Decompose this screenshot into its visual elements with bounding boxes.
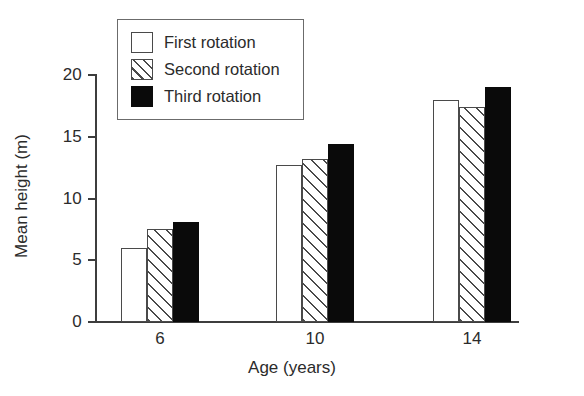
bar-chart: 05101520 61014 Age (years) Mean height (… — [0, 0, 584, 396]
legend-swatch-hatch-icon — [131, 59, 153, 80]
y-tick-mark — [88, 259, 96, 261]
legend-item-first-rotation: First rotation — [131, 29, 303, 56]
legend-item-second-rotation: Second rotation — [131, 56, 303, 83]
bar-second-rotation-age-14 — [459, 107, 485, 322]
y-axis-title: Mean height (m) — [12, 96, 32, 296]
legend-swatch-solid-icon — [131, 86, 153, 107]
legend-label: Second rotation — [164, 61, 280, 78]
x-tick-label: 10 — [275, 330, 355, 348]
y-tick-label: 15 — [36, 128, 82, 145]
bar-second-rotation-age-6 — [147, 229, 173, 322]
chart-legend: First rotation Second rotation Third rot… — [117, 19, 304, 120]
y-tick-label: 5 — [36, 251, 82, 268]
x-tick-label: 14 — [432, 330, 512, 348]
x-tick-label: 6 — [120, 330, 200, 348]
y-tick-label: 10 — [36, 190, 82, 207]
legend-label: First rotation — [164, 34, 256, 51]
y-tick-mark — [88, 198, 96, 200]
x-axis-title: Age (years) — [0, 358, 584, 378]
y-tick-label: 20 — [36, 66, 82, 83]
bar-third-rotation-age-10 — [328, 144, 354, 322]
bar-first-rotation-age-10 — [276, 165, 302, 322]
y-tick-mark — [88, 136, 96, 138]
y-tick-mark — [88, 74, 96, 76]
y-tick-label: 0 — [36, 313, 82, 330]
legend-swatch-open-icon — [131, 32, 153, 53]
legend-item-third-rotation: Third rotation — [131, 83, 303, 110]
bar-second-rotation-age-10 — [302, 159, 328, 322]
bar-first-rotation-age-14 — [433, 100, 459, 322]
bar-third-rotation-age-6 — [173, 222, 199, 322]
bar-third-rotation-age-14 — [485, 87, 511, 322]
bar-first-rotation-age-6 — [121, 248, 147, 322]
y-tick-mark — [88, 321, 96, 323]
legend-label: Third rotation — [164, 88, 261, 105]
